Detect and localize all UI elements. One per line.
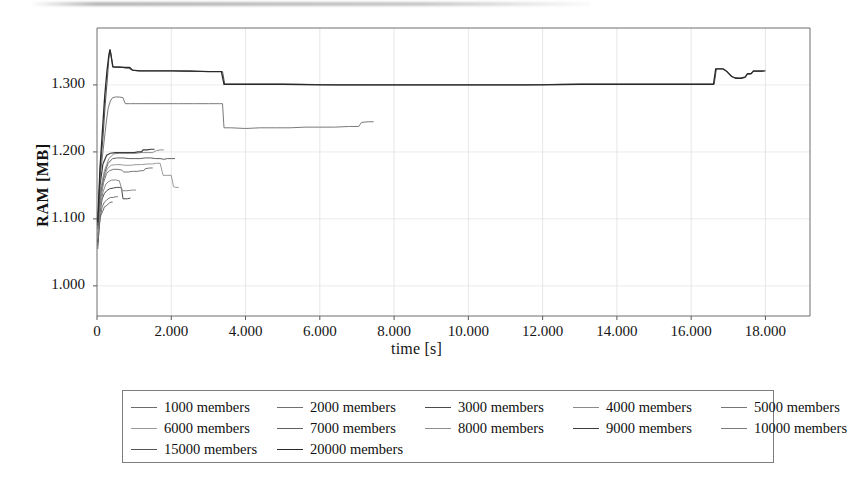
legend-item-label: 9000 members — [606, 420, 692, 437]
series-line-7000-members — [98, 158, 175, 229]
y-tick-label: 1.100 — [15, 209, 85, 226]
legend-line-swatch — [425, 407, 451, 408]
legend-item-5000-members[interactable]: 5000 members — [721, 399, 852, 416]
x-tick-label: 18.000 — [725, 323, 805, 340]
legend-item-label: 7000 members — [310, 420, 396, 437]
legend-line-swatch — [573, 428, 599, 429]
legend-item-3000-members[interactable]: 3000 members — [425, 399, 573, 416]
chart-canvas — [0, 0, 833, 372]
legend-item-6000-members[interactable]: 6000 members — [131, 420, 277, 437]
x-tick-label: 4.000 — [206, 323, 286, 340]
legend-item-label: 4000 members — [606, 399, 692, 416]
legend-item-label: 15000 members — [164, 441, 257, 458]
legend-item-label: 20000 members — [310, 441, 403, 458]
legend-row: 15000 members20000 members — [123, 439, 773, 460]
legend-item-1000-members[interactable]: 1000 members — [131, 399, 277, 416]
legend-item-label: 10000 members — [754, 420, 847, 437]
legend-item-15000-members[interactable]: 15000 members — [131, 441, 277, 458]
legend-line-swatch — [131, 449, 157, 450]
legend-item-label: 2000 members — [310, 399, 396, 416]
legend-line-swatch — [573, 407, 599, 408]
legend-item-label: 6000 members — [164, 420, 250, 437]
series-line-10000-members — [98, 97, 374, 226]
chart-legend: 1000 members2000 members3000 members4000… — [122, 390, 774, 463]
legend-line-swatch — [277, 449, 303, 450]
legend-line-swatch — [131, 407, 157, 408]
legend-item-7000-members[interactable]: 7000 members — [277, 420, 425, 437]
x-tick-label: 2.000 — [131, 323, 211, 340]
series-line-5000-members — [98, 168, 153, 236]
legend-row: 6000 members7000 members8000 members9000… — [123, 418, 773, 439]
y-tick-label: 1.200 — [15, 142, 85, 159]
x-tick-label: 12.000 — [503, 323, 583, 340]
legend-item-8000-members[interactable]: 8000 members — [425, 420, 573, 437]
y-tick-label: 1.300 — [15, 75, 85, 92]
x-tick-label: 10.000 — [428, 323, 508, 340]
series-line-8000-members — [98, 150, 164, 227]
legend-line-swatch — [721, 407, 747, 408]
x-tick-label: 6.000 — [280, 323, 360, 340]
x-tick-label: 14.000 — [577, 323, 657, 340]
legend-item-label: 1000 members — [164, 399, 250, 416]
legend-row: 1000 members2000 members3000 members4000… — [123, 397, 773, 418]
legend-line-swatch — [277, 428, 303, 429]
series-line-9000-members — [98, 149, 155, 225]
x-axis-title: time [s] — [0, 340, 833, 358]
legend-item-label: 5000 members — [754, 399, 840, 416]
series-line-20000-members — [98, 49, 766, 222]
legend-item-2000-members[interactable]: 2000 members — [277, 399, 425, 416]
legend-item-4000-members[interactable]: 4000 members — [573, 399, 721, 416]
legend-line-swatch — [131, 428, 157, 429]
x-tick-label: 8.000 — [354, 323, 434, 340]
legend-item-label: 8000 members — [458, 420, 544, 437]
legend-line-swatch — [425, 428, 451, 429]
legend-line-swatch — [721, 428, 747, 429]
plot-area-wrapper: RAM [MB] time [s] 02.0004.0006.0008.0001… — [0, 0, 833, 372]
x-tick-label: 16.000 — [651, 323, 731, 340]
series-line-15000-members — [98, 50, 764, 225]
legend-item-label: 3000 members — [458, 399, 544, 416]
legend-item-20000-members[interactable]: 20000 members — [277, 441, 425, 458]
y-tick-label: 1.000 — [15, 276, 85, 293]
legend-item-9000-members[interactable]: 9000 members — [573, 420, 721, 437]
legend-line-swatch — [277, 407, 303, 408]
x-tick-label: 0 — [57, 323, 137, 340]
legend-item-10000-members[interactable]: 10000 members — [721, 420, 852, 437]
